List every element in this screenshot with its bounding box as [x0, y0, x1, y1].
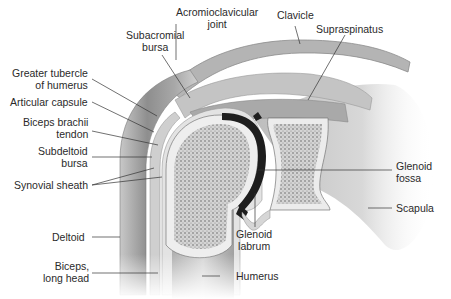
shoulder-joint-diagram: Acromioclavicular joint Clavicle Suprasp…	[0, 0, 451, 299]
label-synovial-sheath: Synovial sheath	[14, 180, 88, 192]
label-subdeltoid-bursa: Subdeltoid bursa	[38, 146, 88, 169]
label-supraspinatus: Supraspinatus	[316, 24, 383, 36]
label-subacromial-bursa: Subacromial bursa	[126, 30, 184, 53]
label-glenoid-labrum: Glenoid labrum	[236, 229, 272, 252]
label-humerus: Humerus	[236, 271, 279, 283]
label-articular-capsule: Articular capsule	[10, 97, 88, 109]
label-biceps-brachii-tendon: Biceps brachii tendon	[23, 117, 88, 140]
label-acromioclavicular-joint: Acromioclavicular joint	[176, 7, 258, 30]
label-deltoid: Deltoid	[52, 232, 85, 244]
label-scapula: Scapula	[396, 203, 434, 215]
label-biceps-long-head: Biceps, long head	[43, 261, 89, 284]
label-clavicle: Clavicle	[277, 10, 314, 22]
label-greater-tubercle: Greater tubercle of humerus	[12, 68, 88, 91]
label-glenoid-fossa: Glenoid fossa	[396, 161, 432, 184]
